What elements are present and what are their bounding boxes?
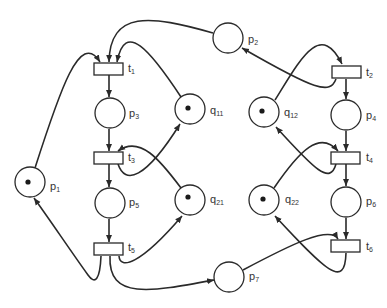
label-p1: p1: [50, 180, 60, 193]
label-p2: p2: [248, 33, 258, 46]
label-t6: t6: [366, 240, 373, 253]
arc-q22-t4: [274, 142, 338, 188]
transition-t2: [332, 66, 361, 78]
place-p4: [331, 100, 361, 130]
place-p3: [95, 98, 125, 128]
transition-t6: [331, 240, 360, 252]
place-q21: [175, 185, 205, 215]
arc-p2-t1: [109, 20, 213, 62]
label-t4: t4: [366, 151, 373, 164]
label-q12: q12: [284, 106, 298, 119]
place-p5: [95, 188, 125, 218]
label-t2: t2: [366, 66, 373, 79]
label-p7: p7: [249, 270, 259, 283]
token-q21: [185, 194, 190, 199]
label-t1: t1: [128, 62, 135, 75]
arc-t5-p1: [34, 198, 101, 280]
arc-t2-p2: [242, 48, 336, 87]
petri-net-diagram: p1 p2 p3 p4 p5 p6 p7 q11 q12 q21 q22 t1 …: [0, 0, 387, 308]
arc-t5-q21: [119, 216, 182, 263]
transition-t3: [94, 152, 123, 164]
place-p7: [214, 262, 244, 292]
arc-p1-t1: [35, 53, 100, 168]
arc-q11-t1: [117, 42, 181, 97]
transition-t4: [331, 152, 360, 164]
transition-t5: [94, 243, 123, 255]
label-q21: q21: [210, 193, 224, 206]
label-t5: t5: [128, 241, 135, 254]
arc-t5-p7: [110, 256, 214, 289]
transition-t1: [94, 63, 123, 75]
label-p4: p4: [366, 109, 376, 122]
token-q12: [259, 108, 264, 113]
label-p3: p3: [129, 107, 139, 120]
place-p2: [213, 23, 243, 53]
label-q22: q22: [285, 193, 299, 206]
arc-t3-q11: [118, 124, 180, 175]
place-p6: [331, 187, 361, 217]
label-q11: q11: [210, 104, 223, 117]
label-p6: p6: [366, 195, 376, 208]
label-t3: t3: [128, 151, 135, 164]
token-p1: [25, 179, 30, 184]
token-q11: [185, 105, 190, 110]
token-q22: [260, 196, 265, 201]
label-p5: p5: [129, 196, 139, 209]
